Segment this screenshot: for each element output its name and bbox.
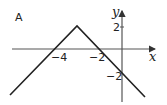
x-axis-label: x	[149, 49, 157, 64]
graph-figure: A y x 2 −2 −4 −2	[0, 0, 167, 105]
y-axis-label: y	[111, 4, 120, 19]
y-tick-label-2: 2	[113, 21, 120, 34]
figure-label: A	[15, 11, 23, 24]
graph-line	[10, 26, 145, 97]
y-tick-label-neg2: −2	[106, 70, 122, 83]
x-tick-label-neg4: −4	[51, 51, 67, 64]
x-tick-label-neg2: −2	[89, 51, 105, 64]
